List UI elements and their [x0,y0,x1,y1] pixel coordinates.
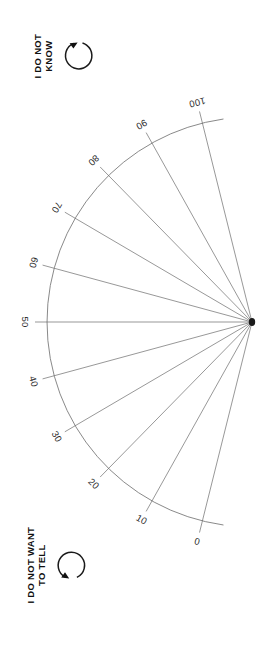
option-i-do-not-know-label: I DO NOT KNOW [32,27,54,85]
option-i-do-not-want-to-tell-label: I DO NOT WANT TO TELL [25,517,47,613]
option-i-do-not-know[interactable]: I DO NOT KNOW [26,18,118,94]
tick-label-70: 70 [50,200,65,215]
spoke-60[interactable] [43,265,252,322]
spoke-20[interactable] [100,322,252,477]
spoke-0[interactable] [200,322,253,533]
tick-label-80: 80 [86,153,102,169]
tick-label-100: 100 [188,95,207,110]
tick-label-90: 90 [134,117,149,132]
spoke-30[interactable] [65,322,252,432]
tick-label-60: 60 [27,256,40,269]
option-i-do-not-want-to-tell[interactable]: I DO NOT WANT TO TELL [22,500,118,630]
tick-label-30: 30 [50,429,65,444]
hub-dot [249,318,255,326]
tick-label-20: 20 [86,476,102,492]
spoke-10[interactable] [146,322,252,511]
tick-label-40: 40 [27,375,40,388]
spoke-70[interactable] [65,212,252,322]
circular-arrow-counterclockwise-icon [54,548,88,582]
spoke-80[interactable] [100,167,252,322]
spoke-90[interactable] [146,133,252,322]
tick-label-50: 50 [20,317,31,328]
scale-hub [249,318,255,326]
circular-arrow-clockwise-icon [62,39,96,73]
spoke-100[interactable] [200,111,253,322]
tick-label-10: 10 [134,512,149,527]
tick-label-0: 0 [193,535,201,547]
tick-labels-group: 0102030405060708090100 [20,95,206,547]
spoke-40[interactable] [43,322,252,379]
spokes-group [35,111,252,532]
